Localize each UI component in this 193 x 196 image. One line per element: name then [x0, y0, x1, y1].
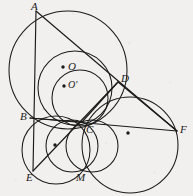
center-cmf-dot — [126, 131, 129, 134]
circle-CMF — [82, 97, 178, 193]
point-label-e: E — [26, 172, 33, 183]
point-label-c: C — [86, 124, 93, 135]
center-bce-dot — [53, 143, 56, 146]
seg-D-C — [82, 82, 118, 122]
geometry-canvas — [0, 0, 193, 196]
point-label-m: M — [76, 172, 85, 183]
center-O-dot — [61, 65, 64, 68]
point-label-o: O — [68, 61, 76, 72]
point-label-a: A — [31, 1, 38, 12]
point-label-op: O' — [68, 80, 77, 90]
geometry-figure: ABCDEFMOO' — [0, 0, 193, 196]
circle-BCD — [52, 70, 108, 126]
seg-A-E — [33, 11, 36, 171]
segments-group — [30, 11, 177, 171]
seg-D-F — [118, 82, 177, 131]
point-label-d: D — [121, 73, 129, 84]
point-label-b: B — [20, 111, 27, 122]
center-Op-dot — [62, 84, 65, 87]
point-label-f: F — [180, 124, 187, 135]
